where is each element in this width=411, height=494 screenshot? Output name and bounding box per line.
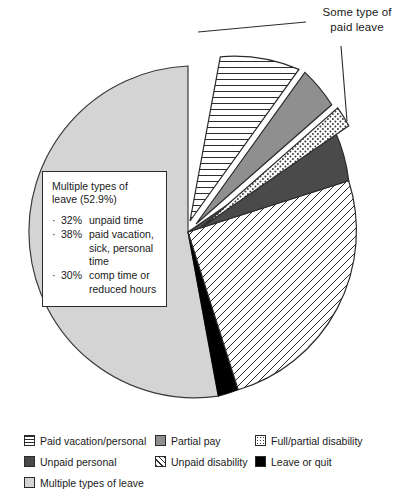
legend-item-paid-vacation-personal: Paid vacation/personal — [24, 435, 155, 447]
bullet-icon: · — [52, 228, 61, 241]
inset-list-item: · 30% comp time or reduced hours — [52, 269, 158, 296]
inset-multiple-types-of-leave: Multiple types of leave (52.9%) · 32% un… — [42, 171, 167, 307]
inset-item-description: comp time or reduced hours — [89, 269, 158, 296]
inset-title-line-1: Multiple types of — [52, 180, 158, 193]
bullet-icon: · — [52, 269, 61, 282]
inset-breakdown-list: · 32% unpaid time · 38% paid vacation, s… — [52, 214, 158, 296]
bullet-icon: · — [52, 214, 61, 227]
annotation-line-2: paid leave — [305, 20, 409, 35]
leader-line-paid-vacation — [198, 22, 306, 32]
legend-label: Unpaid disability — [171, 456, 247, 468]
swatch-medium-gray-icon — [155, 435, 166, 446]
inset-item-percent: 30% — [61, 269, 89, 282]
annotation-line-1: Some type of — [305, 5, 409, 20]
inset-list-item: · 38% paid vacation, sick, personal time — [52, 228, 158, 268]
legend-label: Unpaid personal — [40, 456, 116, 468]
chart-legend: Paid vacation/personal Partial pay Full/… — [24, 430, 394, 493]
annotation-some-type-of-paid-leave: Some type of paid leave — [305, 5, 409, 34]
inset-item-description: paid vacation, sick, personal time — [89, 228, 158, 268]
swatch-dark-gray-icon — [24, 456, 35, 467]
legend-label: Full/partial disability — [271, 435, 363, 447]
pie-chart-figure: Some type of paid leave Multiple types o… — [0, 0, 411, 494]
swatch-diagonal-hatch-icon — [155, 456, 166, 467]
legend-item-leave-or-quit: Leave or quit — [255, 456, 394, 468]
legend-item-unpaid-personal: Unpaid personal — [24, 456, 155, 468]
leader-line-full-partial-disability — [341, 46, 347, 121]
legend-item-multiple-types-of-leave: Multiple types of leave — [24, 477, 155, 489]
legend-label: Paid vacation/personal — [40, 435, 146, 447]
inset-list-item: · 32% unpaid time — [52, 214, 158, 227]
inset-title: Multiple types of leave (52.9%) — [52, 180, 158, 207]
inset-item-percent: 32% — [61, 214, 89, 227]
swatch-black-icon — [255, 456, 266, 467]
legend-item-unpaid-disability: Unpaid disability — [155, 456, 255, 468]
swatch-dotted-icon — [255, 435, 266, 446]
legend-item-partial-pay: Partial pay — [155, 435, 255, 447]
legend-label: Multiple types of leave — [40, 477, 144, 489]
inset-item-percent: 38% — [61, 228, 89, 241]
inset-title-line-2: leave (52.9%) — [52, 193, 158, 206]
inset-item-description: unpaid time — [89, 214, 158, 227]
legend-label: Partial pay — [171, 435, 221, 447]
swatch-light-gray-icon — [24, 477, 35, 488]
legend-label: Leave or quit — [271, 456, 332, 468]
swatch-horizontal-lines-icon — [24, 435, 35, 446]
legend-item-full-partial-disability: Full/partial disability — [255, 435, 394, 447]
